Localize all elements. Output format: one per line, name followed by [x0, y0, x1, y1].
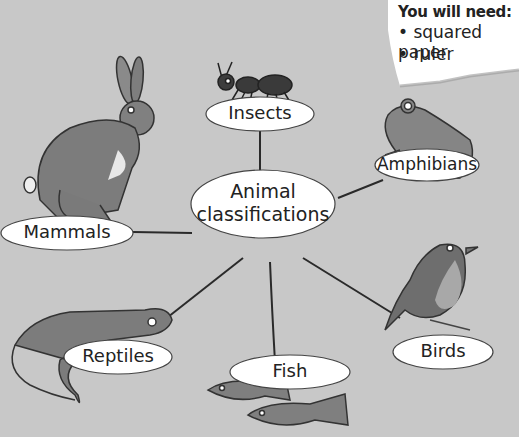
- node-birds-label: Birds: [393, 340, 493, 361]
- line-fish: [270, 262, 275, 362]
- node-reptiles-label: Reptiles: [64, 345, 172, 366]
- line-mammals: [133, 232, 192, 233]
- center-node-label: Animal classifications: [190, 180, 336, 226]
- node-fish-label: Fish: [230, 360, 350, 381]
- node-insects-label: Insects: [206, 102, 314, 123]
- connector-lines: [133, 128, 400, 362]
- node-amphibians-label: Amphibians: [375, 154, 479, 174]
- line-amphibians: [338, 180, 383, 198]
- line-reptiles: [168, 258, 243, 317]
- line-birds: [303, 258, 400, 318]
- center-label-line1: Animal: [190, 180, 336, 203]
- hare-icon: [24, 55, 154, 220]
- center-label-line2: classifications: [190, 203, 336, 226]
- node-mammals-label: Mammals: [1, 221, 133, 242]
- note-item-ruler: • ruler: [398, 44, 453, 64]
- animal-classification-diagram: You will need: • squared paper • ruler A…: [0, 0, 519, 437]
- note-title: You will need:: [398, 3, 512, 21]
